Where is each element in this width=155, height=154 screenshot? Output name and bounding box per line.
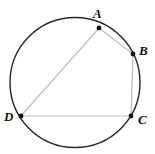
segment-DA (21, 28, 99, 116)
circle-outline (10, 18, 140, 148)
vertex-point-c (129, 114, 134, 119)
vertex-label-b: B (139, 44, 148, 57)
vertex-label-c: C (138, 113, 147, 126)
chords-group (21, 28, 133, 116)
vertex-label-a: A (93, 7, 102, 20)
vertex-point-d (19, 114, 24, 119)
geometry-figure: ABCD (0, 0, 155, 154)
vertex-point-b (131, 52, 136, 57)
vertex-label-d: D (4, 110, 13, 123)
vertex-point-a (97, 26, 102, 31)
segment-BC (131, 54, 133, 116)
circle-diagram-canvas (0, 0, 155, 154)
vertex-points-group (19, 26, 136, 119)
